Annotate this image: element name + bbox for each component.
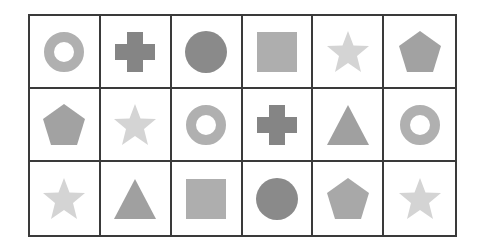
ring-icon — [184, 103, 228, 147]
grid-cell-r2-c6 — [384, 89, 455, 162]
grid-cell-r3-c2 — [101, 162, 172, 235]
triangle-icon — [326, 103, 370, 147]
grid-cell-r1-c2 — [101, 16, 172, 89]
star-icon — [113, 103, 157, 147]
ring-icon — [42, 30, 86, 74]
grid-cell-r1-c5 — [313, 16, 384, 89]
grid-cell-r1-c4 — [243, 16, 314, 89]
grid-cell-r3-c3 — [172, 162, 243, 235]
pentagon-icon — [398, 30, 442, 74]
cross-icon — [113, 30, 157, 74]
grid-cell-r2-c5 — [313, 89, 384, 162]
cross-icon — [255, 103, 299, 147]
grid-cell-r3-c4 — [243, 162, 314, 235]
grid-cell-r2-c3 — [172, 89, 243, 162]
star-icon — [398, 177, 442, 221]
star-icon — [326, 30, 370, 74]
circle-icon — [255, 177, 299, 221]
pentagon-icon — [42, 103, 86, 147]
grid-cell-r1-c3 — [172, 16, 243, 89]
grid-cell-r1-c1 — [30, 16, 101, 89]
grid-cell-r2-c4 — [243, 89, 314, 162]
square-icon — [255, 30, 299, 74]
star-icon — [42, 177, 86, 221]
ring-icon — [398, 103, 442, 147]
grid-cell-r3-c6 — [384, 162, 455, 235]
circle-icon — [184, 30, 228, 74]
grid-cell-r3-c1 — [30, 162, 101, 235]
pentagon-icon — [326, 177, 370, 221]
triangle-icon — [113, 177, 157, 221]
grid-cell-r2-c1 — [30, 89, 101, 162]
shape-grid — [28, 14, 457, 237]
grid-cell-r2-c2 — [101, 89, 172, 162]
grid-cell-r3-c5 — [313, 162, 384, 235]
grid-cell-r1-c6 — [384, 16, 455, 89]
square-icon — [184, 177, 228, 221]
